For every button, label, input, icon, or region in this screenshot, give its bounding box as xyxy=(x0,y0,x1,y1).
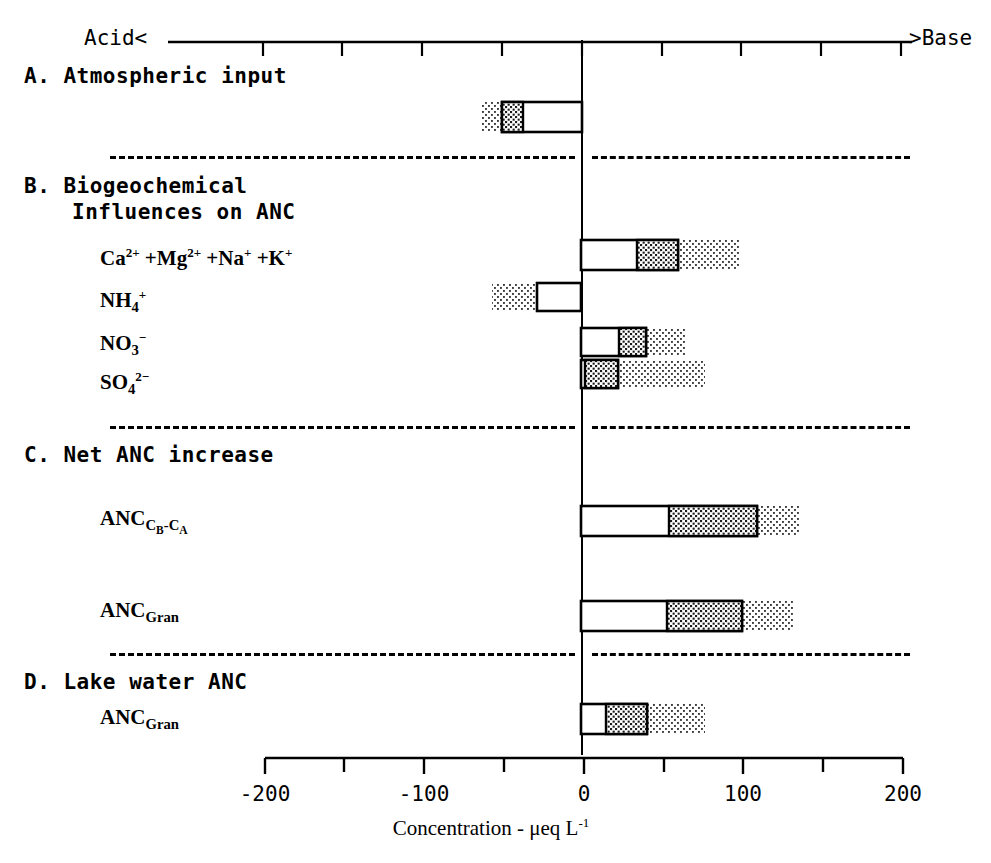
row-label-nitrate: NO3− xyxy=(100,333,146,354)
axis-title-exponent: -1 xyxy=(578,815,589,830)
chart-canvas: Acid< >Base A. Atmospheric input B. Biog… xyxy=(0,0,991,863)
bar-anc-cb-ca xyxy=(575,500,815,542)
row-label-base-cations: Ca2+ +Mg2+ +Na+ +K+ xyxy=(100,248,292,269)
zero-axis-line xyxy=(581,40,583,755)
tick-label-100: 100 xyxy=(703,782,783,806)
axis-title: Concentration - μeq L-1 xyxy=(291,816,691,841)
bar-anc-gran-d xyxy=(575,698,745,740)
tick-label-neg100: -100 xyxy=(384,782,464,806)
section-heading-d: D. Lake water ANC xyxy=(24,668,247,696)
tick-label-neg200: -200 xyxy=(225,782,305,806)
section-heading-a: A. Atmospheric input xyxy=(24,62,287,90)
row-label-anc-cb-ca: ANCCB-CA xyxy=(100,508,188,530)
section-heading-c: C. Net ANC increase xyxy=(24,441,274,469)
axis-title-main: Concentration - xyxy=(393,816,529,840)
section-separator-2 xyxy=(110,426,575,429)
axis-title-unit: μeq L xyxy=(529,816,578,840)
tick-label-zero: 0 xyxy=(544,782,624,806)
bar-base-cations xyxy=(575,234,775,276)
row-label-sulfate: SO42− xyxy=(100,372,149,393)
section-separator-1b xyxy=(592,156,910,159)
section-separator-1 xyxy=(110,156,575,159)
section-separator-2b xyxy=(592,426,910,429)
axis-left-end-label: Acid< xyxy=(84,26,147,50)
row-label-anc-gran-c: ANCGran xyxy=(100,600,179,621)
bar-ammonium xyxy=(485,278,605,318)
bottom-axis xyxy=(250,750,920,776)
bar-anc-gran-c xyxy=(575,595,810,637)
section-heading-b-line2: Influences on ANC xyxy=(72,198,295,226)
row-label-anc-gran-d: ANCGran xyxy=(100,707,179,728)
bar-sulfate xyxy=(575,355,745,395)
top-axis xyxy=(160,36,920,58)
section-separator-3b xyxy=(592,653,910,656)
section-heading-b-line1: B. Biogeochemical xyxy=(24,172,247,200)
bar-atmospheric-input xyxy=(455,96,615,138)
section-separator-3 xyxy=(110,653,575,656)
tick-label-200: 200 xyxy=(863,782,943,806)
row-label-ammonium: NH4+ xyxy=(100,290,146,311)
